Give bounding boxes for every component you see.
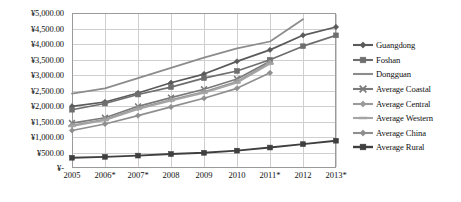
legend-marker-icon [352, 83, 374, 95]
x-axis-tick-label: 2008 [163, 170, 180, 180]
series-average-rural [70, 138, 339, 160]
legend-marker-icon [352, 98, 374, 110]
legend-item-guangdong[interactable]: Guangdong [352, 38, 460, 53]
legend-item-average-china[interactable]: Average China [352, 126, 460, 141]
y-axis-tick-label: ¥5,000.00 [31, 8, 64, 18]
y-axis-labels: ¥-¥500.00¥1,000.00¥1,500.00¥2,000.00¥2,5… [0, 13, 68, 168]
legend-label: Average Western [374, 113, 433, 123]
x-axis-tick-label: 2011* [260, 170, 281, 180]
legend-label: Average China [374, 128, 426, 138]
y-axis-tick-label: ¥3,000.00 [31, 70, 64, 80]
y-axis-tick-label: ¥1,000.00 [31, 132, 64, 142]
legend-item-average-western[interactable]: Average Western [352, 111, 460, 126]
y-axis-tick-label: ¥500.00 [37, 148, 64, 158]
legend-item-average-rural[interactable]: Average Rural [352, 140, 460, 155]
legend-label: Dongguan [374, 69, 411, 79]
x-axis-tick-label: 2012 [295, 170, 312, 180]
legend-item-foshan[interactable]: Foshan [352, 53, 460, 68]
chart-legend: GuangdongFoshanDongguanAverage CoastalAv… [352, 38, 460, 155]
legend-marker-icon [352, 112, 374, 124]
legend-label: Guangdong [374, 40, 415, 50]
legend-label: Average Rural [374, 142, 424, 152]
legend-label: Foshan [374, 55, 400, 65]
legend-marker-icon [352, 54, 374, 66]
legend-label: Average Coastal [374, 84, 431, 94]
series-average-western [69, 63, 274, 127]
y-axis-tick-label: ¥2,000.00 [31, 101, 64, 111]
y-axis-tick-label: ¥3,500.00 [31, 55, 64, 65]
legend-item-average-central[interactable]: Average Central [352, 96, 460, 111]
legend-label: Average Central [374, 99, 430, 109]
x-axis-tick-label: 2009 [196, 170, 213, 180]
x-axis-tick-label: 2007* [127, 170, 148, 180]
legend-marker-icon [352, 68, 374, 80]
legend-marker-icon [352, 141, 374, 153]
legend-marker-icon [352, 39, 374, 51]
x-axis-labels: 20052006*2007*2008200920102011*20122013* [72, 170, 336, 186]
chart-container: ¥-¥500.00¥1,000.00¥1,500.00¥2,000.00¥2,5… [0, 0, 461, 202]
x-axis-tick-label: 2006* [94, 170, 115, 180]
series-line [72, 63, 270, 126]
legend-item-average-coastal[interactable]: Average Coastal [352, 82, 460, 97]
y-axis-tick-label: ¥4,000.00 [31, 39, 64, 49]
x-axis-tick-label: 2013* [325, 170, 346, 180]
x-axis-tick-label: 2010 [229, 170, 246, 180]
x-axis-tick-label: 2005 [64, 170, 81, 180]
series-layer [72, 13, 336, 168]
y-axis-tick-label: ¥4,500.00 [31, 24, 64, 34]
series-line [72, 64, 270, 126]
legend-item-dongguan[interactable]: Dongguan [352, 67, 460, 82]
y-axis-tick-label: ¥2,500.00 [31, 86, 64, 96]
y-axis-tick-label: ¥1,500.00 [31, 117, 64, 127]
legend-marker-icon [352, 127, 374, 139]
